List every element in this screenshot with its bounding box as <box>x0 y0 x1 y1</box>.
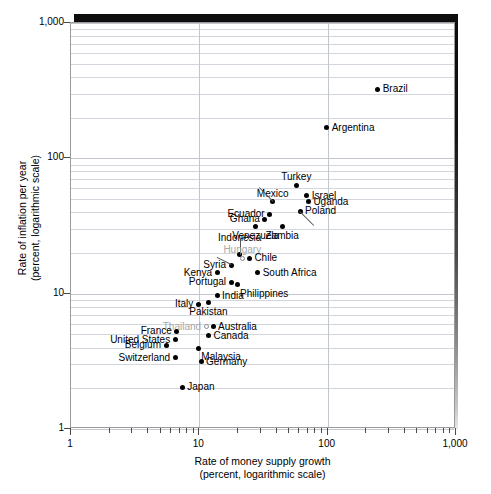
data-point <box>280 224 285 229</box>
data-point <box>196 346 201 351</box>
gridline-horizontal <box>71 324 454 325</box>
point-label: Philippines <box>240 289 288 299</box>
x-axis-title-line1: Rate of money supply growth <box>70 455 455 468</box>
point-label: Canada <box>214 331 249 341</box>
point-label: Brazil <box>383 84 408 94</box>
data-point <box>247 256 252 261</box>
x-axis-title: Rate of money supply growth (percent, lo… <box>70 455 455 481</box>
x-tick <box>170 428 171 433</box>
gridline-horizontal <box>71 53 454 54</box>
y-tick <box>64 157 70 158</box>
gridline-horizontal <box>71 29 454 30</box>
x-tick <box>416 428 417 433</box>
y-axis-title: Rate of inflation per year (percent, log… <box>16 103 42 333</box>
x-tick <box>427 428 428 433</box>
y-tick <box>64 22 70 23</box>
data-point <box>204 324 209 329</box>
gridline-horizontal <box>71 199 454 200</box>
data-point <box>199 359 204 364</box>
data-point <box>240 256 245 261</box>
x-tick <box>365 428 366 433</box>
x-tick-label: 100 <box>297 439 357 449</box>
x-tick <box>237 428 238 433</box>
x-tick <box>321 428 322 433</box>
x-tick <box>455 428 456 435</box>
point-label: Poland <box>305 206 336 216</box>
y-tick <box>64 293 70 294</box>
point-label: Japan <box>187 382 214 392</box>
data-point <box>235 282 240 287</box>
x-tick <box>288 428 289 433</box>
data-point <box>253 224 258 229</box>
x-tick <box>327 428 328 435</box>
x-tick <box>435 428 436 433</box>
gridline-horizontal <box>71 44 454 45</box>
y-tick <box>64 428 70 429</box>
x-tick <box>307 428 308 433</box>
point-label: Argentina <box>332 123 375 133</box>
gridline-horizontal <box>71 179 454 180</box>
gridline-horizontal <box>71 307 454 308</box>
gridline-vertical <box>328 23 329 427</box>
data-point <box>174 329 179 334</box>
data-point <box>262 217 267 222</box>
x-tick <box>388 428 389 433</box>
gridline-horizontal <box>71 158 454 159</box>
x-tick <box>131 428 132 433</box>
point-label: Switzerland <box>118 353 170 363</box>
point-label: Zambia <box>266 231 299 241</box>
data-point <box>375 87 380 92</box>
gridline-vertical <box>199 23 200 427</box>
data-point <box>206 300 211 305</box>
y-axis-title-line1: Rate of inflation per year <box>16 103 29 333</box>
x-tick <box>147 428 148 433</box>
y-axis-title-line2: (percent, logarithmic scale) <box>29 103 42 333</box>
gridline-horizontal <box>71 64 454 65</box>
x-tick <box>449 428 450 433</box>
point-label: Germany <box>206 357 247 367</box>
x-tick-label: 1,000 <box>425 439 485 449</box>
data-point <box>180 385 185 390</box>
y-tick-label: 1,000 <box>20 17 64 27</box>
gridline-horizontal <box>71 118 454 119</box>
gridline-horizontal <box>71 300 454 301</box>
x-tick <box>186 428 187 433</box>
x-tick <box>179 428 180 433</box>
scatter-chart: 1101001,0001101001,000 Rate of money sup… <box>0 0 491 494</box>
point-label: Belgium <box>125 340 161 350</box>
point-label: India <box>222 291 244 301</box>
point-label: Pakistan <box>189 307 227 317</box>
x-tick <box>160 428 161 433</box>
data-point <box>267 212 272 217</box>
data-point <box>294 183 299 188</box>
gridline-horizontal <box>71 36 454 37</box>
y-tick-label: 1 <box>20 423 64 433</box>
x-tick <box>298 428 299 433</box>
data-point <box>211 324 216 329</box>
data-point <box>173 337 178 342</box>
x-tick <box>193 428 194 433</box>
gridline-horizontal <box>71 315 454 316</box>
x-tick <box>276 428 277 433</box>
x-tick-label: 10 <box>168 439 228 449</box>
x-tick <box>314 428 315 433</box>
data-point <box>215 293 220 298</box>
data-point <box>229 280 234 285</box>
x-axis-title-line2: (percent, logarithmic scale) <box>70 468 455 481</box>
point-label: Ghana <box>230 214 260 224</box>
x-tick <box>198 428 199 435</box>
point-label: South Africa <box>263 268 317 278</box>
x-tick <box>404 428 405 433</box>
point-label: Turkey <box>281 172 311 182</box>
gridline-horizontal <box>71 77 454 78</box>
point-label: Chile <box>254 253 277 263</box>
gridline-horizontal <box>71 165 454 166</box>
x-tick <box>260 428 261 433</box>
gridline-horizontal <box>71 388 454 389</box>
x-tick <box>70 428 71 435</box>
x-tick-label: 1 <box>40 439 100 449</box>
gridline-horizontal <box>71 364 454 365</box>
x-tick <box>109 428 110 433</box>
gridline-horizontal <box>71 171 454 172</box>
gridline-horizontal <box>71 429 454 430</box>
